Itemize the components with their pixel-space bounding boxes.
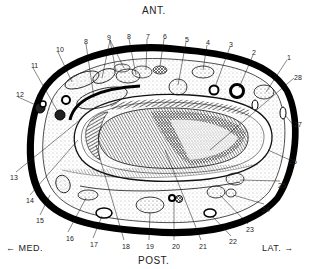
structure-label: 5 [185,36,189,43]
structure-label: 19 [146,243,154,250]
structure-label: 24 [262,206,270,213]
structure-label: 23 [246,226,254,233]
structure-label: 14 [26,197,34,204]
structure-label: 18 [122,243,130,250]
structure-label: 20 [172,243,180,250]
structure-label: 6 [163,33,167,40]
structure-label: 28 [294,74,302,81]
structure-label: 1 [287,54,291,61]
structure-label: 3 [229,41,233,48]
structure-label: 8 [84,38,88,45]
structure-label: 13 [10,174,18,181]
structure-label: 16 [66,235,74,242]
lateral-label: LAT. → [262,243,294,253]
structure-label: 22 [229,238,237,245]
structure-label: 7 [146,33,150,40]
structure-label: 15 [36,217,44,224]
structure-label: 12 [16,91,24,98]
structure-label: 4 [206,39,210,46]
medial-label: ← MED. [6,243,43,253]
structure-label: 2 [252,49,256,56]
cross-section-diagram [0,0,310,269]
structure-label: 9 [107,34,111,41]
structure-label: 26 [289,158,297,165]
structure-label: 11 [31,62,38,69]
structure-label: 21 [199,243,207,250]
structure-label: 27 [294,121,302,128]
structure-label: 25 [278,182,286,189]
structure-label: 10 [56,46,64,53]
structure-label: 8 [127,33,131,40]
anterior-label: ANT. [142,5,166,16]
posterior-label: POST. [138,255,169,266]
structure-label: 17 [90,241,98,248]
